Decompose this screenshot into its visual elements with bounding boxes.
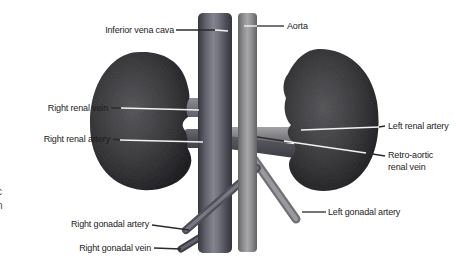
label-right-renal-vein: Right renal vein — [22, 103, 108, 113]
leader-right-gonadal-vein — [154, 248, 181, 249]
edge-text-fragment-1: c — [0, 186, 2, 197]
leader-left-renal-artery — [379, 126, 385, 127]
edge-text-fragment-2: n — [0, 200, 3, 211]
label-aorta: Aorta — [287, 21, 308, 31]
aorta-vessel — [238, 13, 257, 252]
label-right-gonadal-vein: Right gonadal vein — [65, 243, 151, 253]
label-right-gonadal-artery: Right gonadal artery — [55, 219, 149, 229]
label-right-renal-artery: Right renal artery — [14, 134, 110, 144]
right-kidney — [90, 52, 191, 190]
label-retro-aortic-renal-vein-line1: Retro-aortic — [388, 150, 433, 160]
label-retro-aortic-renal-vein-line2: renal vein — [388, 162, 426, 172]
label-inferior-vena-cava: Inferior vena cava — [58, 25, 174, 35]
left-kidney — [284, 49, 379, 191]
label-left-renal-artery: Left renal artery — [388, 121, 448, 131]
label-left-gonadal-artery: Left gonadal artery — [328, 207, 400, 217]
leader-inferior-vena-cava-light — [215, 30, 228, 31]
kidney-vessel-diagram: Inferior vena cava Aorta Right renal vei… — [0, 0, 459, 267]
